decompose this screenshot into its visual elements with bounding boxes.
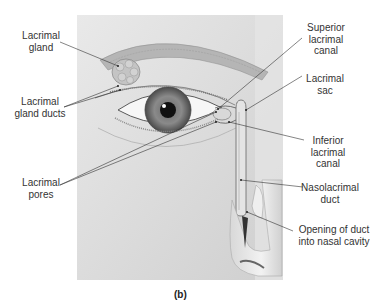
label-lacrimal-gland-ducts: Lacrimal gland ducts: [10, 96, 70, 119]
label-lacrimal-pores: Lacrimal pores: [16, 177, 66, 200]
label-lacrimal-gland: Lacrimal gland: [16, 30, 66, 53]
nasolacrimal-duct-shape: [236, 100, 246, 216]
lacrimal-apparatus-diagram: Lacrimal gland Lacrimal gland ducts Lacr…: [0, 0, 382, 308]
label-lacrimal-sac: Lacrimal sac: [302, 73, 348, 96]
label-inferior-lacrimal-canal: Inferior lacrimal canal: [305, 135, 351, 170]
lacrimal-gland-shape: [112, 59, 140, 85]
figure-caption: (b): [174, 289, 187, 300]
label-nasolacrimal-duct: Nasolacrimal duct: [297, 182, 363, 205]
label-opening-of-duct: Opening of duct into nasal cavity: [292, 224, 376, 247]
pupil: [160, 102, 176, 118]
label-superior-lacrimal-canal: Superior lacrimal canal: [302, 22, 350, 57]
